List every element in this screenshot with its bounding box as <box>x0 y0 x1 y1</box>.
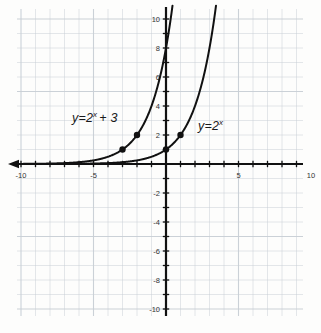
marked-point <box>177 132 183 138</box>
y-tick-label: -2 <box>153 189 160 198</box>
marked-point <box>134 132 140 138</box>
marked-point <box>119 146 125 152</box>
y-tick-label: 10 <box>152 15 160 24</box>
y-tick-label: 8 <box>156 44 160 53</box>
curve-2^(x+3) <box>17 6 173 164</box>
y-tick-label: -8 <box>153 276 160 285</box>
y-tick-label: -6 <box>153 247 160 256</box>
curve-label-right: y=2x <box>198 119 223 133</box>
marked-point <box>163 146 169 152</box>
curve-label-left-suffix: + 3 <box>99 111 117 125</box>
curve-label-left: y=2x+ 3 <box>72 111 118 125</box>
graph-figure: -10-5510-10-8-6-4-2246810 y=2x+ 3 y=2x <box>0 0 321 333</box>
curve-label-right-exponent: x <box>219 118 223 127</box>
x-tick-label: -10 <box>16 171 27 180</box>
y-tick-label: 2 <box>156 131 160 140</box>
curve-2^x <box>17 6 216 164</box>
curve-label-left-lhs: y=2 <box>72 111 93 125</box>
y-tick-label: -10 <box>149 305 160 314</box>
y-tick-label: -4 <box>153 218 160 227</box>
y-tick-label: 4 <box>156 102 160 111</box>
x-tick-label: 5 <box>236 171 240 180</box>
coordinate-plane-svg: -10-5510-10-8-6-4-2246810 <box>0 0 321 333</box>
x-tick-label: 10 <box>307 171 315 180</box>
curve-label-left-exponent: x <box>93 110 97 119</box>
curve-label-right-lhs: y=2 <box>198 119 219 133</box>
x-tick-label: -5 <box>90 171 97 180</box>
